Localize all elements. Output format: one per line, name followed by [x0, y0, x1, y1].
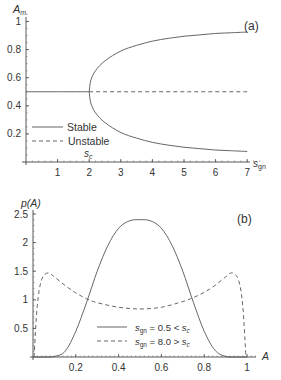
panel-a-bifurcation-chart: 12345670.20.40.60.81 (a) Am sgn sc Stabl…	[7, 3, 266, 178]
panel-b-distribution-chart: 0.20.40.60.810.511.522.5 (b) p(A) A sgn …	[14, 197, 269, 373]
panel-b-legend: sgn = 0.5 < sc sgn = 8.0 > sc	[97, 322, 191, 349]
panel-a-y-axis-label: Am	[12, 3, 26, 16]
y-tick-label: 1.5	[14, 266, 28, 277]
y-tick-label: 0.4	[7, 100, 21, 111]
x-tick-label: 3	[118, 167, 124, 178]
y-tick-label: 2.5	[14, 209, 28, 220]
x-tick-label: 0.4	[112, 362, 126, 373]
x-tick-label: 6	[213, 167, 219, 178]
panel-b-y-axis-label: p(A)	[20, 197, 41, 209]
panel-a-series	[26, 32, 247, 151]
y-tick-label: 0.5	[14, 323, 28, 334]
x-tick-label: 1	[244, 362, 250, 373]
x-tick-label: 0.8	[197, 362, 211, 373]
y-tick-label: 1	[15, 16, 21, 27]
y-tick-label: 0.2	[7, 128, 21, 139]
legend-sgn-0-5: sgn = 0.5 < sc	[135, 322, 191, 335]
x-tick-label: 1	[55, 167, 61, 178]
x-tick-label: 7	[244, 167, 250, 178]
panel-b-label: (b)	[237, 212, 252, 226]
y-tick-label: 0.8	[7, 44, 21, 55]
panel-b-series	[33, 220, 247, 357]
series-line	[89, 32, 247, 92]
y-tick-label: 0.6	[7, 72, 21, 83]
panel-a-label: (a)	[244, 19, 259, 33]
x-tick-label: 2	[86, 167, 92, 178]
y-tick-label: 2	[22, 237, 28, 248]
x-tick-label: 4	[150, 167, 156, 178]
panel-a-x-axis-label: sgn	[253, 158, 266, 171]
panel-b-axes: 0.20.40.60.810.511.522.5	[14, 209, 256, 374]
legend-sgn-8-0: sgn = 8.0 > sc	[135, 336, 191, 349]
sc-annotation: sc	[84, 148, 93, 160]
figure: 12345670.20.40.60.81 (a) Am sgn sc Stabl…	[0, 0, 281, 380]
legend-unstable: Unstable	[68, 135, 110, 147]
series-line	[89, 92, 247, 152]
panel-b-x-axis-label: A	[261, 350, 269, 362]
x-tick-label: 0.6	[154, 362, 168, 373]
x-tick-label: 5	[181, 167, 187, 178]
legend-stable: Stable	[67, 121, 97, 133]
series-line	[33, 220, 247, 357]
x-tick-label: 0.2	[69, 362, 83, 373]
panel-a-axes: 12345670.20.40.60.81	[7, 14, 260, 178]
panel-a-legend: Stable Unstable	[32, 121, 110, 147]
y-tick-label: 1	[22, 294, 28, 305]
